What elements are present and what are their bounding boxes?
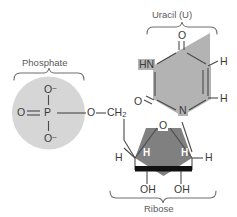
- uracil-nitrogen-1: N: [178, 105, 188, 116]
- uracil-bond-c2-o-double-lower: [144, 100, 152, 104]
- phosphate-oxygen-bottom-symbol: O: [44, 132, 52, 144]
- uracil-hydrogen-c6: H: [219, 93, 229, 104]
- phosphate-group-label: Phosphate: [22, 58, 67, 68]
- ribose-hydroxyl-left: OH: [139, 184, 157, 195]
- phosphorus-center: P: [43, 107, 52, 118]
- phosphate-oxygen-top: O–: [43, 84, 57, 95]
- uracil-nitrogen-3: HN: [138, 59, 155, 70]
- nucleotide-diagram: Phosphate Uracil (U) Ribose O– O– O P O …: [0, 0, 237, 217]
- methylene-group: CH2: [106, 107, 127, 119]
- ribose-hydrogen-outer-left: H: [114, 152, 124, 163]
- ribose-hydrogen-inner-left: H: [142, 148, 151, 158]
- uracil-oxygen-left: O: [133, 96, 143, 107]
- ribose-brace: [110, 191, 216, 203]
- uracil-group-label: Uracil (U): [152, 10, 192, 20]
- ribose-hydrogen-inner-right: H: [180, 148, 189, 158]
- methylene-symbol: CH: [107, 106, 122, 118]
- phosphate-oxygen-top-charge: –: [52, 83, 56, 92]
- phosphate-oxygen-top-symbol: O: [44, 83, 52, 95]
- ester-oxygen: O: [86, 107, 96, 118]
- phosphate-oxygen-bottom-charge: –: [52, 132, 56, 141]
- ribose-ring-oxygen: O: [158, 120, 168, 131]
- uracil-bond-c2-o-double-upper: [146, 96, 154, 100]
- uracil-oxygen-top: O: [177, 30, 187, 41]
- ribose-group-label: Ribose: [144, 204, 174, 214]
- ribose-hydrogen-outer-right: H: [204, 152, 214, 163]
- uracil-hydrogen-c5: H: [219, 56, 229, 67]
- phosphate-oxygen-left: O: [16, 107, 26, 118]
- phosphate-oxygen-bottom: O–: [43, 133, 57, 144]
- methylene-subscript: 2: [122, 110, 126, 119]
- ribose-hydroxyl-right: OH: [173, 184, 191, 195]
